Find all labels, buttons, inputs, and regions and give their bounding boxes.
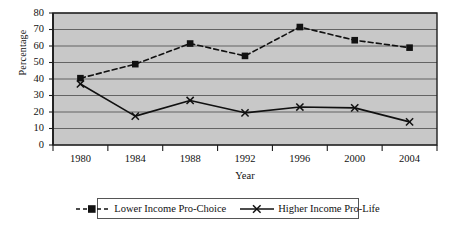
legend-swatch-solid-x-icon — [240, 203, 274, 215]
y-axis-tick-label: 40 — [22, 74, 44, 85]
legend-item-higher-income-pro-life[interactable]: Higher Income Pro-Life — [240, 203, 379, 215]
data-point-marker-square — [351, 37, 358, 44]
data-point-marker-square — [297, 24, 304, 31]
legend-swatch-dashed-square-icon — [76, 203, 110, 215]
y-axis-tick-label: 20 — [22, 107, 44, 118]
data-point-marker-square — [242, 53, 249, 60]
x-axis-tick-label: 1988 — [167, 154, 213, 165]
data-point-marker-square — [77, 75, 84, 82]
y-axis-tick-label: 0 — [22, 140, 44, 151]
x-axis-tick-label: 2000 — [332, 154, 378, 165]
x-axis-tick-label: 1980 — [57, 154, 103, 165]
y-axis-tick-label: 50 — [22, 57, 44, 68]
y-axis-tick-label: 80 — [22, 8, 44, 19]
data-point-marker-square — [132, 61, 139, 68]
legend-label: Lower Income Pro-Choice — [114, 203, 226, 214]
plot-area — [0, 0, 454, 228]
x-axis-tick-label: 2004 — [387, 154, 433, 165]
x-axis-title: Year — [53, 170, 437, 181]
y-axis-tick-label: 10 — [22, 123, 44, 134]
y-axis-tick-label: 30 — [22, 90, 44, 101]
legend-item-lower-income-pro-choice[interactable]: Lower Income Pro-Choice — [76, 203, 226, 215]
x-axis-tick-label: 1996 — [277, 154, 323, 165]
x-axis-tick-label: 1992 — [222, 154, 268, 165]
x-axis-tick-label: 1984 — [112, 154, 158, 165]
y-axis-tick-label: 60 — [22, 41, 44, 52]
y-axis-tick-label: 70 — [22, 24, 44, 35]
legend-label: Higher Income Pro-Life — [278, 203, 379, 214]
chart-legend: Lower Income Pro-Choice Higher Income Pr… — [97, 198, 359, 219]
data-point-marker-square — [406, 44, 413, 51]
data-point-marker-square — [187, 40, 194, 47]
line-chart: Percentage 01020304050607080 19801984198… — [0, 0, 454, 228]
